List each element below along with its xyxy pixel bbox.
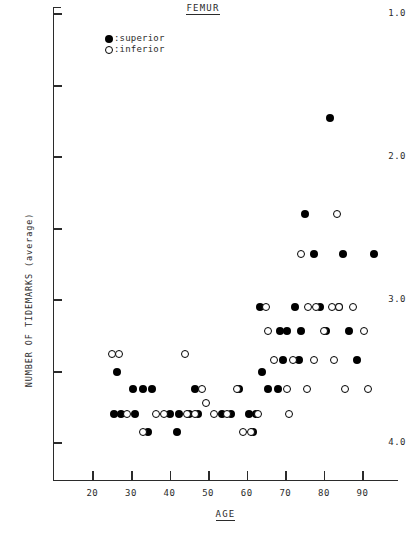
scatter-plot-figure: FEMUR 4.03.02.01.0 2030405060708090 NUMB… bbox=[0, 0, 406, 535]
data-point-superior bbox=[148, 385, 156, 393]
data-point-inferior bbox=[285, 410, 293, 418]
data-point-inferior bbox=[283, 385, 291, 393]
data-point-inferior bbox=[247, 428, 255, 436]
data-point-inferior bbox=[152, 410, 160, 418]
data-point-superior bbox=[113, 368, 121, 376]
data-point-inferior bbox=[210, 410, 218, 418]
data-point-inferior bbox=[360, 327, 368, 335]
data-point-superior bbox=[297, 327, 305, 335]
data-point-superior bbox=[129, 385, 137, 393]
data-point-inferior bbox=[297, 250, 305, 258]
data-point-superior bbox=[345, 327, 353, 335]
data-point-inferior bbox=[349, 303, 357, 311]
data-point-inferior bbox=[181, 350, 189, 358]
data-point-superior bbox=[291, 303, 299, 311]
data-point-superior bbox=[175, 410, 183, 418]
data-point-superior bbox=[283, 327, 291, 335]
data-point-inferior bbox=[303, 385, 311, 393]
data-point-inferior bbox=[202, 399, 210, 407]
data-point-inferior bbox=[270, 356, 278, 364]
data-point-inferior bbox=[330, 356, 338, 364]
data-point-inferior bbox=[310, 356, 318, 364]
data-point-inferior bbox=[198, 385, 206, 393]
data-point-inferior bbox=[160, 410, 168, 418]
data-point-inferior bbox=[254, 410, 262, 418]
data-point-inferior bbox=[262, 303, 270, 311]
data-point-superior bbox=[274, 385, 282, 393]
data-point-superior bbox=[173, 428, 181, 436]
data-point-superior bbox=[326, 114, 334, 122]
data-point-inferior bbox=[123, 410, 131, 418]
data-point-superior bbox=[258, 368, 266, 376]
data-point-superior bbox=[279, 356, 287, 364]
data-point-superior bbox=[131, 410, 139, 418]
data-point-inferior bbox=[264, 327, 272, 335]
data-point-inferior bbox=[239, 428, 247, 436]
data-point-superior bbox=[139, 385, 147, 393]
data-point-inferior bbox=[139, 428, 147, 436]
data-point-superior bbox=[339, 250, 347, 258]
data-points-layer bbox=[0, 0, 406, 535]
data-point-superior bbox=[310, 250, 318, 258]
data-point-inferior bbox=[341, 385, 349, 393]
data-point-inferior bbox=[333, 210, 341, 218]
data-point-inferior bbox=[233, 385, 241, 393]
data-point-inferior bbox=[364, 385, 372, 393]
data-point-superior bbox=[353, 356, 361, 364]
data-point-superior bbox=[264, 385, 272, 393]
data-point-inferior bbox=[115, 350, 123, 358]
data-point-superior bbox=[370, 250, 378, 258]
data-point-superior bbox=[301, 210, 309, 218]
data-point-inferior bbox=[335, 303, 343, 311]
